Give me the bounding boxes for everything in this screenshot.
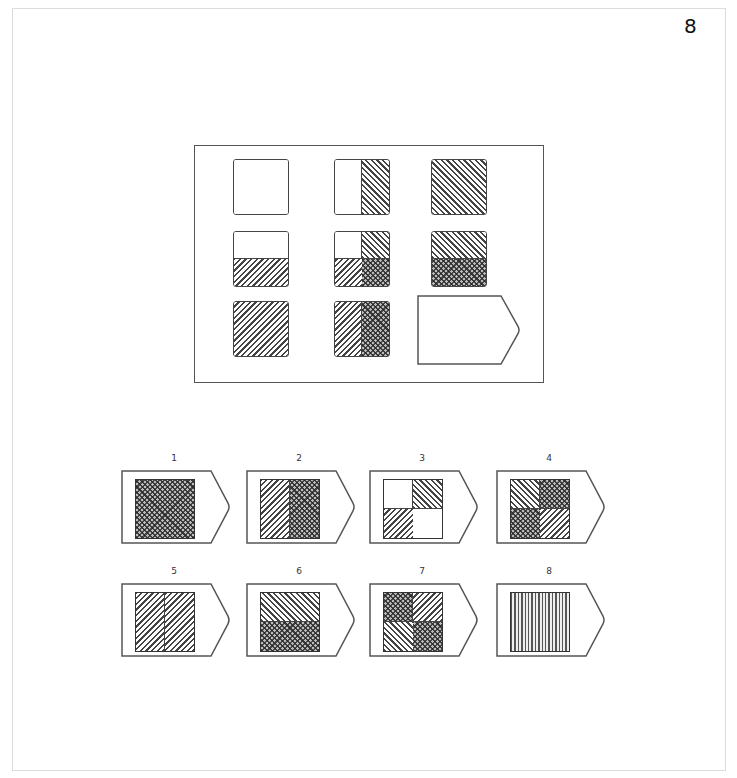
pattern-d1: [384, 622, 413, 651]
pattern-cross: [432, 259, 486, 286]
pattern-d1: [511, 480, 540, 509]
answer-option-1[interactable]: [119, 468, 231, 546]
matrix-cell-r3c2: [334, 301, 390, 357]
tag-outline-icon: [415, 293, 521, 367]
pattern-d1: [261, 593, 319, 622]
pattern-d2: [261, 480, 290, 538]
option-label-4: 4: [539, 453, 559, 463]
pattern-cross: [384, 593, 413, 622]
matrix-cell-r1c1: [233, 159, 289, 215]
pattern-d1: [413, 480, 442, 509]
answer-option-6[interactable]: [244, 581, 356, 659]
pattern-d1: [432, 160, 486, 214]
pattern-cross: [511, 509, 540, 538]
pattern-blank: [335, 160, 362, 214]
matrix-cell-r2c2: [334, 231, 390, 287]
option-pattern-8: [510, 592, 570, 652]
option-label-6: 6: [289, 566, 309, 576]
option-pattern-6: [260, 592, 320, 652]
pattern-d1: [432, 232, 486, 259]
pattern-d2: [335, 259, 362, 286]
matrix-cell-r2c1: [233, 231, 289, 287]
pattern-blank: [335, 232, 362, 259]
option-label-2: 2: [289, 453, 309, 463]
missing-answer-slot: [415, 293, 521, 367]
pattern-cross: [413, 622, 442, 651]
puzzle-matrix: [194, 145, 544, 383]
pattern-blank: [413, 509, 442, 538]
option-pattern-1: [135, 479, 195, 539]
pattern-d1: [362, 160, 389, 214]
matrix-cell-r2c3: [431, 231, 487, 287]
pattern-cross: [136, 480, 194, 538]
matrix-cell-r1c2: [334, 159, 390, 215]
pattern-d1: [362, 232, 389, 259]
matrix-cell-r1c3: [431, 159, 487, 215]
option-pattern-5: [135, 592, 195, 652]
pattern-d2: [234, 302, 288, 356]
pattern-d2: [165, 593, 194, 651]
pattern-cross: [290, 480, 319, 538]
answer-option-2[interactable]: [244, 468, 356, 546]
page-number: 8: [684, 14, 697, 38]
pattern-d2: [384, 509, 413, 538]
matrix-cell-r3c1: [233, 301, 289, 357]
option-pattern-7: [383, 592, 443, 652]
option-label-3: 3: [412, 453, 432, 463]
pattern-vert: [511, 593, 569, 651]
pattern-d2: [234, 259, 288, 286]
pattern-cross: [362, 259, 389, 286]
answer-option-7[interactable]: [367, 581, 479, 659]
pattern-cross: [362, 302, 389, 356]
pattern-d2: [335, 302, 362, 356]
answer-option-8[interactable]: [494, 581, 606, 659]
answer-option-4[interactable]: [494, 468, 606, 546]
pattern-d2: [136, 593, 165, 651]
option-label-1: 1: [164, 453, 184, 463]
option-pattern-2: [260, 479, 320, 539]
option-label-5: 5: [164, 566, 184, 576]
option-pattern-4: [510, 479, 570, 539]
pattern-d2: [540, 509, 569, 538]
pattern-blank: [234, 160, 288, 214]
pattern-d2: [413, 593, 442, 622]
option-label-8: 8: [539, 566, 559, 576]
option-label-7: 7: [412, 566, 432, 576]
pattern-cross: [261, 622, 319, 651]
option-pattern-3: [383, 479, 443, 539]
pattern-blank: [234, 232, 288, 259]
answer-option-3[interactable]: [367, 468, 479, 546]
pattern-cross: [540, 480, 569, 509]
answer-option-5[interactable]: [119, 581, 231, 659]
pattern-blank: [384, 480, 413, 509]
